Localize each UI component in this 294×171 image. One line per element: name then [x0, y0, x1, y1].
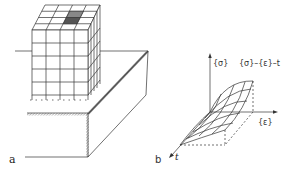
panel-a: [15, 5, 148, 157]
stress-strain-time-surface: [180, 81, 253, 145]
sigma-axis-arrow-icon: [208, 53, 211, 58]
panel-b: [169, 53, 278, 158]
axes: [169, 53, 278, 158]
panel-a-label: a: [9, 153, 16, 166]
surface-label: {σ}–{ε}–t: [239, 59, 280, 68]
epsilon-axis-arrow-icon: [273, 110, 278, 113]
t-axis: [172, 112, 210, 155]
sigma-axis-label: {σ}: [213, 59, 228, 68]
panel-b-label: b: [155, 154, 161, 165]
t-axis-label: t: [175, 152, 179, 162]
epsilon-axis-label: {ε}: [258, 118, 273, 127]
diagram-canvas: a: [0, 0, 294, 171]
